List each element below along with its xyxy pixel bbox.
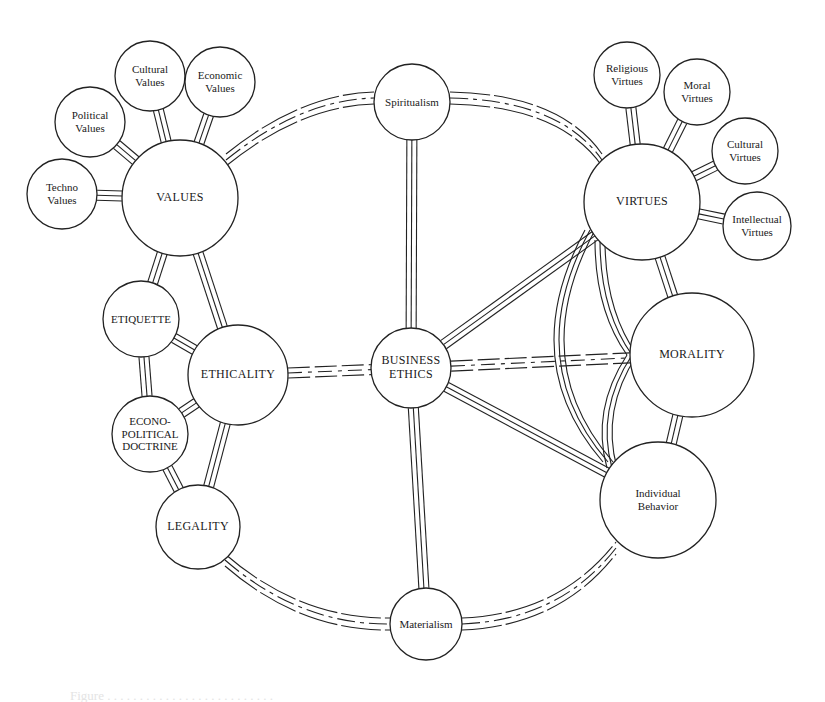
node-econo-political-doctrine [112,396,188,472]
node-spiritualism [374,64,450,140]
node-materialism [390,588,462,660]
business-ethics-diagram: BUSINESS ETHICSSpiritualismMaterialismVA… [0,0,825,702]
node-cultural-virtues [712,118,778,184]
node-legality [156,485,240,569]
node-techno-values [27,159,97,229]
node-moral-virtues [664,59,730,125]
figure-caption: Figure . . . . . . . . . . . . . . . . .… [70,688,770,702]
node-etiquette [103,281,179,357]
node-political-values [55,87,125,157]
node-virtues [584,144,700,260]
node-ethicality [188,325,288,425]
node-values [122,140,238,256]
node-morality [630,293,754,417]
node-religious-virtues [594,42,660,108]
node-cultural-values [115,41,185,111]
node-intellectual-virtues [723,192,791,260]
node-circles [0,0,825,702]
node-business-ethics [371,328,451,408]
node-individual-behavior [600,442,716,558]
node-economic-values [185,47,255,117]
